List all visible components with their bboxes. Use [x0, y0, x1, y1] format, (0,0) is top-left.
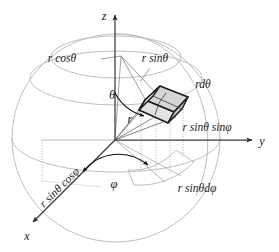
r-radius-label: r	[128, 112, 133, 126]
labels-group: z y x r cosθ r sinθ rdθ r sinθ sinφ r si…	[23, 9, 265, 243]
diagram-canvas: z y x r cosθ r sinθ rdθ r sinθ sinφ r si…	[0, 0, 279, 252]
volume-element-group	[139, 86, 188, 123]
theta-angle-label: θ	[109, 88, 115, 102]
x-axis-label: x	[23, 229, 30, 243]
axes-group	[33, 15, 252, 222]
spherical-coordinates-diagram: z y x r cosθ r sinθ rdθ r sinθ sinφ r si…	[0, 0, 279, 252]
projection-ray-inner	[115, 140, 165, 182]
r-sin-theta-cos-phi-label: r sinθ cosφ	[37, 164, 83, 210]
rcos-leader	[101, 56, 121, 59]
r-cos-theta-label: r cosθ	[48, 52, 77, 64]
r-sin-theta-sin-phi-label: r sinθ sinφ	[182, 121, 232, 134]
sphere-great-circle	[12, 34, 220, 242]
r-sin-theta-d-phi-label: r sinθdφ	[178, 182, 217, 195]
sphere-outline-group	[12, 34, 220, 242]
r-sin-theta-label: r sinθ	[142, 52, 169, 64]
z-axis-label: z	[101, 9, 107, 23]
projection-arc-connector-left	[128, 170, 134, 185]
r-d-theta-label: rdθ	[195, 78, 211, 90]
y-axis-label: y	[258, 134, 265, 148]
projection-arc-connector-right	[176, 150, 194, 162]
phi-angle-label: φ	[111, 177, 118, 191]
x-axis	[33, 140, 115, 222]
